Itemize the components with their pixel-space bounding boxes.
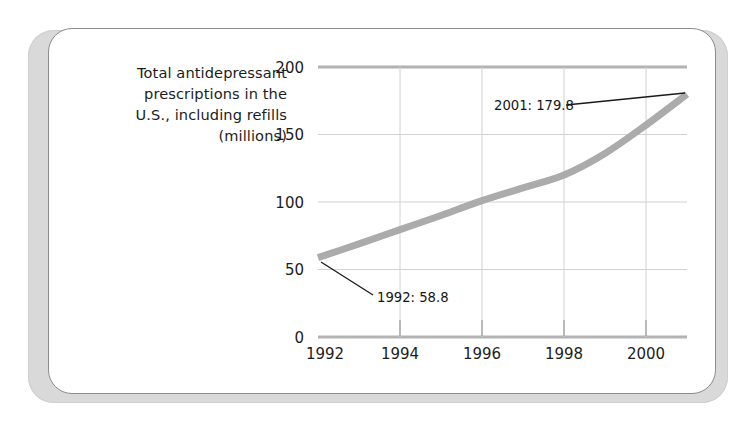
x-tick-label-1992: 1992 <box>306 345 344 363</box>
line-chart-plot: 050100150200 19921994199619982000 1992: … <box>0 0 755 423</box>
series-line-antidepressant-prescriptions <box>318 94 687 257</box>
annotation-leader-2001 <box>566 93 685 105</box>
y-tick-label-150: 150 <box>275 126 304 144</box>
y-tick-label-200: 200 <box>275 59 304 77</box>
annotation-label-1992: 1992: 58.8 <box>377 290 449 305</box>
x-axis-tick-labels: 19921994199619982000 <box>306 345 665 363</box>
annotation-leader-1992 <box>321 262 373 295</box>
x-tick-label-2000: 2000 <box>627 345 665 363</box>
figure-container: Total antidepressant prescriptions in th… <box>0 0 755 423</box>
x-tick-label-1998: 1998 <box>545 345 583 363</box>
data-series-line <box>318 94 687 257</box>
y-axis-tick-labels: 050100150200 <box>275 59 304 347</box>
x-tick-label-1996: 1996 <box>463 345 501 363</box>
x-tick-label-1994: 1994 <box>381 345 419 363</box>
annotation-label-2001: 2001: 179.8 <box>494 98 574 113</box>
y-tick-label-50: 50 <box>285 261 304 279</box>
x-ticks <box>400 320 646 336</box>
y-tick-label-0: 0 <box>294 329 304 347</box>
y-tick-label-100: 100 <box>275 194 304 212</box>
